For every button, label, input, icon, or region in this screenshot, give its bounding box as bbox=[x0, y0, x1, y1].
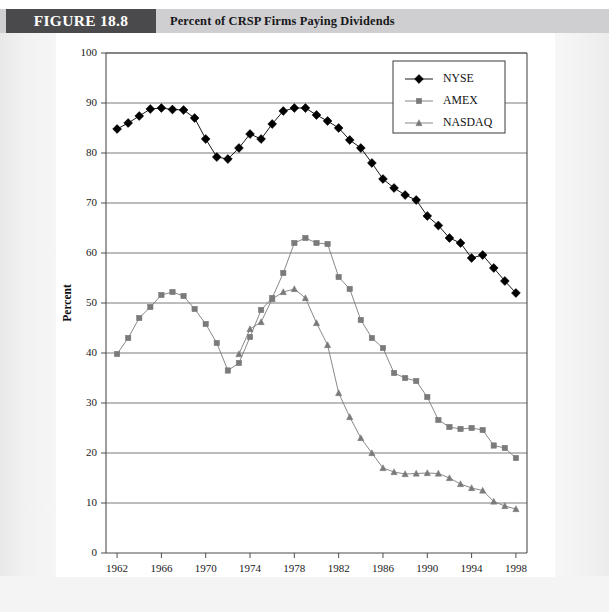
data-point-triangle bbox=[302, 295, 308, 301]
data-point-square bbox=[247, 334, 252, 339]
x-tick-label: 1978 bbox=[283, 562, 306, 574]
data-point-triangle bbox=[324, 342, 330, 348]
legend-label: NYSE bbox=[443, 71, 474, 85]
data-point-diamond bbox=[124, 119, 133, 128]
data-point-square bbox=[225, 368, 230, 373]
y-tick-label: 0 bbox=[92, 546, 98, 558]
data-point-diamond bbox=[367, 159, 376, 168]
data-point-diamond bbox=[179, 106, 188, 115]
y-tick-label: 10 bbox=[86, 496, 98, 508]
data-point-diamond bbox=[290, 104, 299, 113]
data-point-triangle bbox=[313, 320, 319, 326]
data-point-diamond bbox=[113, 125, 122, 134]
y-tick-label: 30 bbox=[86, 396, 98, 408]
data-point-square bbox=[502, 445, 507, 450]
data-point-triangle bbox=[247, 326, 253, 332]
data-point-diamond bbox=[190, 114, 199, 123]
data-point-diamond bbox=[135, 112, 144, 121]
data-point-square bbox=[347, 286, 352, 291]
data-point-square bbox=[281, 270, 286, 275]
data-point-diamond bbox=[401, 191, 410, 200]
series-line bbox=[117, 108, 516, 293]
data-point-square bbox=[336, 274, 341, 279]
data-point-triangle bbox=[446, 475, 452, 481]
x-tick-label: 1994 bbox=[461, 562, 484, 574]
data-point-square bbox=[203, 321, 208, 326]
x-tick-label: 1962 bbox=[106, 562, 128, 574]
data-point-square bbox=[137, 315, 142, 320]
data-point-square bbox=[258, 307, 263, 312]
data-point-triangle bbox=[502, 503, 508, 509]
data-point-diamond bbox=[356, 144, 365, 153]
data-point-diamond bbox=[467, 254, 476, 263]
data-point-diamond bbox=[323, 117, 332, 126]
figure-header-bar: FIGURE 18.8 Percent of CRSP Firms Paying… bbox=[0, 9, 609, 33]
data-point-diamond bbox=[246, 130, 255, 139]
x-tick-label: 1998 bbox=[505, 562, 527, 574]
data-point-diamond bbox=[301, 104, 310, 113]
data-point-triangle bbox=[347, 414, 353, 420]
data-point-square bbox=[214, 340, 219, 345]
data-point-square bbox=[292, 240, 297, 245]
y-tick-label: 90 bbox=[86, 96, 98, 108]
y-tick-label: 70 bbox=[86, 196, 98, 208]
data-point-square bbox=[436, 417, 441, 422]
data-point-triangle bbox=[336, 390, 342, 396]
data-point-diamond bbox=[312, 111, 321, 120]
data-point-square bbox=[369, 335, 374, 340]
data-point-square bbox=[358, 317, 363, 322]
y-tick-label: 50 bbox=[86, 296, 98, 308]
data-point-square bbox=[380, 345, 385, 350]
chart-panel: 0102030405060708090100 19621966197019741… bbox=[56, 33, 555, 577]
data-point-triangle bbox=[457, 481, 463, 487]
figure-number-label: FIGURE 18.8 bbox=[6, 9, 156, 33]
data-point-square bbox=[159, 292, 164, 297]
y-tick-label: 20 bbox=[86, 446, 98, 458]
data-point-triangle bbox=[291, 286, 297, 292]
data-point-diamond bbox=[168, 105, 177, 114]
x-tick-label: 1970 bbox=[195, 562, 218, 574]
data-point-square bbox=[414, 378, 419, 383]
data-point-square bbox=[192, 306, 197, 311]
chart-legend: NYSEAMEXNASDAQ bbox=[393, 61, 505, 133]
x-axis-ticks: 1962196619701974197819821986199019941998 bbox=[106, 553, 527, 574]
x-tick-label: 1982 bbox=[328, 562, 350, 574]
data-point-square bbox=[513, 455, 518, 460]
line-chart: 0102030405060708090100 19621966197019741… bbox=[56, 33, 555, 577]
y-tick-label: 80 bbox=[86, 146, 98, 158]
data-point-square bbox=[236, 360, 241, 365]
data-point-diamond bbox=[212, 153, 221, 162]
data-point-diamond bbox=[390, 184, 399, 193]
page-texture-right bbox=[555, 30, 609, 582]
x-tick-label: 1986 bbox=[372, 562, 395, 574]
page-texture-bottom bbox=[0, 576, 609, 612]
data-point-square bbox=[170, 289, 175, 294]
x-tick-label: 1974 bbox=[239, 562, 261, 574]
series-line bbox=[239, 289, 516, 509]
data-point-square bbox=[425, 394, 430, 399]
data-point-square bbox=[314, 240, 319, 245]
series-nasdaq bbox=[236, 286, 519, 512]
y-tick-label: 40 bbox=[86, 346, 98, 358]
data-point-square bbox=[402, 375, 407, 380]
data-point-square bbox=[447, 424, 452, 429]
data-point-square bbox=[181, 293, 186, 298]
figure-page: FIGURE 18.8 Percent of CRSP Firms Paying… bbox=[0, 0, 609, 612]
data-point-square bbox=[125, 335, 130, 340]
data-point-square bbox=[148, 304, 153, 309]
data-point-square bbox=[416, 98, 421, 103]
y-axis-ticks: 0102030405060708090100 bbox=[81, 46, 107, 558]
data-point-diamond bbox=[157, 104, 166, 113]
data-point-diamond bbox=[257, 135, 266, 144]
data-point-triangle bbox=[358, 435, 364, 441]
figure-title: Percent of CRSP Firms Paying Dividends bbox=[170, 9, 395, 33]
data-point-diamond bbox=[201, 135, 210, 144]
data-series-group bbox=[113, 104, 521, 512]
legend-label: AMEX bbox=[443, 93, 478, 107]
data-point-square bbox=[491, 443, 496, 448]
data-point-diamond bbox=[456, 239, 465, 248]
data-point-triangle bbox=[258, 319, 264, 325]
y-tick-label: 60 bbox=[86, 246, 98, 258]
data-point-square bbox=[325, 241, 330, 246]
data-point-diamond bbox=[146, 105, 155, 114]
